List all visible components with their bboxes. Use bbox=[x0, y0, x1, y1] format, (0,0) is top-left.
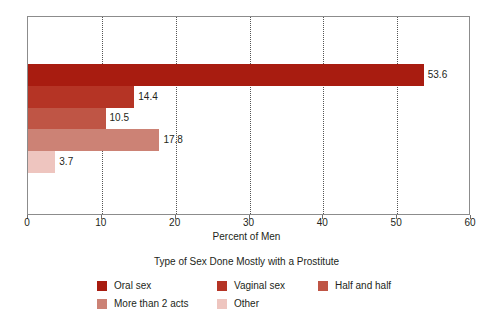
legend-label: Oral sex bbox=[114, 281, 151, 291]
bar-value-label: 3.7 bbox=[55, 157, 73, 167]
bar bbox=[28, 108, 106, 130]
legend-title: Type of Sex Done Mostly with a Prostitut… bbox=[0, 256, 493, 268]
x-tick-label: 50 bbox=[391, 216, 402, 230]
bar bbox=[28, 129, 159, 151]
legend-swatch bbox=[217, 299, 227, 309]
bar-row: 53.6 bbox=[28, 64, 469, 86]
legend-swatch bbox=[97, 281, 107, 291]
legend-item[interactable]: Vaginal sex bbox=[217, 278, 285, 293]
bar-value-label: 17.8 bbox=[159, 135, 182, 145]
bar bbox=[28, 64, 424, 86]
legend-swatch bbox=[97, 299, 107, 309]
legend-item[interactable]: Other bbox=[217, 296, 259, 311]
bar-value-label: 53.6 bbox=[424, 70, 447, 80]
x-tick-label: 20 bbox=[169, 216, 180, 230]
legend-label: More than 2 acts bbox=[114, 299, 188, 309]
bar-row: 10.5 bbox=[28, 108, 469, 130]
bar bbox=[28, 151, 55, 173]
bar-row: 17.8 bbox=[28, 129, 469, 151]
legend-item[interactable]: More than 2 acts bbox=[97, 296, 188, 311]
legend-label: Other bbox=[234, 299, 259, 309]
x-tick-label: 30 bbox=[243, 216, 254, 230]
x-tick-label: 0 bbox=[24, 216, 30, 230]
legend-label: Half and half bbox=[335, 281, 391, 291]
bar-value-label: 10.5 bbox=[106, 113, 129, 123]
legend-swatch bbox=[217, 281, 227, 291]
bar-chart: 53.614.410.517.83.7 0102030405060 Percen… bbox=[0, 0, 493, 324]
legend-item[interactable]: Half and half bbox=[318, 278, 391, 293]
x-axis-tick-labels: 0102030405060 bbox=[27, 216, 470, 230]
plot-area: 53.614.410.517.83.7 bbox=[27, 16, 470, 215]
legend-label: Vaginal sex bbox=[234, 281, 285, 291]
x-axis-title: Percent of Men bbox=[0, 231, 493, 243]
x-tick-label: 60 bbox=[464, 216, 475, 230]
x-tick-label: 40 bbox=[317, 216, 328, 230]
bar-row: 14.4 bbox=[28, 86, 469, 108]
bars-layer: 53.614.410.517.83.7 bbox=[28, 17, 469, 214]
bar-row: 3.7 bbox=[28, 151, 469, 173]
bar bbox=[28, 86, 134, 108]
x-tick-label: 10 bbox=[95, 216, 106, 230]
bar-value-label: 14.4 bbox=[134, 92, 157, 102]
legend-item[interactable]: Oral sex bbox=[97, 278, 151, 293]
legend-swatch bbox=[318, 281, 328, 291]
